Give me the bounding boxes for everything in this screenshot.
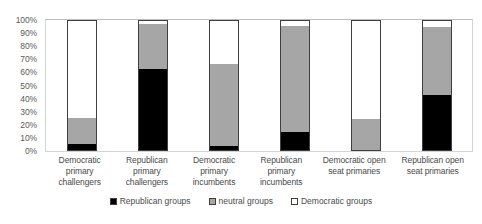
y-axis-tick-label: 90% (1, 28, 37, 38)
bar-stack[interactable] (422, 20, 452, 151)
y-axis-tick-label: 50% (1, 81, 37, 91)
y-axis-tick-label: 80% (1, 41, 37, 51)
y-axis-tick-label: 0% (1, 146, 37, 156)
y-axis-tick-label: 20% (1, 120, 37, 130)
bar-slot (330, 20, 401, 151)
bars-layer (46, 20, 472, 151)
legend-item[interactable]: Republican groups (110, 196, 191, 206)
x-axis-category-line: Republican (113, 155, 180, 166)
bar-slot (117, 20, 188, 151)
bar-slot (401, 20, 472, 151)
bar-segment-rep (68, 144, 96, 150)
bar-stack[interactable] (351, 20, 381, 151)
bar-slot (259, 20, 330, 151)
y-axis-tick-label: 10% (1, 133, 37, 143)
x-axis-category-line: seat primaries (393, 166, 472, 177)
legend-label: Democratic groups (301, 196, 372, 206)
x-axis-category-label: Democraticprimarychallengers (46, 155, 113, 191)
chart-legend: Republican groupsneutral groupsDemocrati… (0, 196, 482, 206)
bar-segment-neu (68, 118, 96, 144)
bar-segment-neu (281, 26, 309, 132)
x-axis-category-line: Republican (248, 155, 315, 166)
legend-item[interactable]: Democratic groups (291, 196, 372, 206)
legend-label: neutral groups (219, 196, 273, 206)
stacked-bar-chart: 100%90%80%70%60%50%40%30%20%10%0% Democr… (0, 0, 482, 224)
x-axis-category-line: primary (46, 166, 113, 177)
legend-swatch-icon (209, 198, 216, 205)
x-axis-category-line: challengers (46, 177, 113, 188)
bar-segment-neu (352, 119, 380, 150)
bar-segment-neu (423, 27, 451, 94)
legend-swatch-icon (291, 198, 298, 205)
bar-segment-rep (423, 95, 451, 150)
bar-segment-neu (210, 64, 238, 147)
x-axis: DemocraticprimarychallengersRepublicanpr… (46, 155, 472, 191)
x-axis-category-line: Democratic open (315, 155, 394, 166)
x-axis-category-line: incumbents (180, 177, 247, 188)
bar-segment-dem (68, 21, 96, 118)
bar-segment-rep (210, 146, 238, 150)
bar-segment-rep (139, 69, 167, 150)
legend-swatch-icon (110, 198, 117, 205)
legend-item[interactable]: neutral groups (209, 196, 273, 206)
x-axis-category-line: challengers (113, 177, 180, 188)
bar-stack[interactable] (209, 20, 239, 151)
bar-segment-neu (139, 24, 167, 69)
x-axis-category-label: Republican openseat primaries (393, 155, 472, 191)
x-axis-category-line: primary (113, 166, 180, 177)
y-axis-tick-label: 100% (1, 15, 37, 25)
x-axis-category-label: Democratic openseat primaries (315, 155, 394, 191)
x-axis-category-line: Republican open (393, 155, 472, 166)
y-axis: 100%90%80%70%60%50%40%30%20%10%0% (0, 13, 41, 158)
bar-slot (46, 20, 117, 151)
bar-segment-dem (210, 21, 238, 64)
bar-stack[interactable] (138, 20, 168, 151)
x-axis-category-line: primary (180, 166, 247, 177)
x-axis-category-line: seat primaries (315, 166, 394, 177)
y-axis-tick-label: 60% (1, 67, 37, 77)
bar-segment-rep (281, 132, 309, 150)
x-axis-category-label: Democraticprimaryincumbents (180, 155, 247, 191)
bar-stack[interactable] (67, 20, 97, 151)
x-axis-category-line: primary (248, 166, 315, 177)
y-axis-tick-label: 40% (1, 94, 37, 104)
x-axis-category-line: incumbents (248, 177, 315, 188)
x-axis-category-label: Republicanprimaryincumbents (248, 155, 315, 191)
bar-segment-dem (352, 21, 380, 119)
x-axis-category-label: Republicanprimarychallengers (113, 155, 180, 191)
x-axis-category-line: Democratic (46, 155, 113, 166)
y-axis-tick-label: 30% (1, 107, 37, 117)
bar-slot (188, 20, 259, 151)
y-axis-tick-label: 70% (1, 54, 37, 64)
legend-label: Republican groups (120, 196, 191, 206)
bar-stack[interactable] (280, 20, 310, 151)
x-axis-category-line: Democratic (180, 155, 247, 166)
